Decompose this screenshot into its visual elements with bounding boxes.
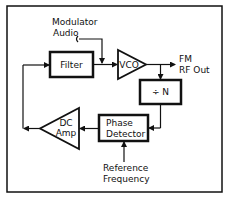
reference-label-2: Frequency bbox=[103, 174, 150, 184]
dc-amp-label-1: DC bbox=[59, 118, 72, 128]
dc-amp-label-2: Amp bbox=[56, 128, 77, 138]
divider-block: ÷ N bbox=[140, 80, 181, 104]
fm-out-label-2: RF Out bbox=[179, 65, 210, 75]
modulator-audio-label-2: Audio bbox=[53, 28, 79, 38]
phase-detector-label-2: Detector bbox=[106, 129, 146, 139]
phase-detector-block: Phase Detector bbox=[99, 115, 148, 141]
vco-block: VCO bbox=[118, 50, 146, 79]
fm-out-label-1: FM bbox=[179, 54, 192, 64]
phase-detector-label-1: Phase bbox=[106, 118, 133, 128]
filter-label: Filter bbox=[60, 60, 83, 70]
reference-label-1: Reference bbox=[103, 163, 149, 173]
dc-amp-block: DC Amp bbox=[40, 108, 79, 149]
pll-block-diagram: Filter VCO ÷ N Phase Detector DC Amp bbox=[0, 0, 229, 203]
filter-block: Filter bbox=[50, 52, 93, 77]
divider-label: ÷ N bbox=[152, 87, 169, 97]
vco-label: VCO bbox=[119, 60, 139, 70]
modulator-audio-label-1: Modulator bbox=[52, 17, 98, 27]
